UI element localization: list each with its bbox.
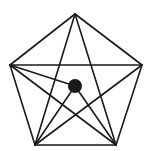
edge-left-top — [10, 14, 75, 65]
graph-nodes — [68, 79, 82, 93]
center-node — [68, 79, 82, 93]
edge-right-bottom-right — [116, 65, 142, 145]
edge-center-bottom-left — [35, 86, 75, 145]
edge-top-right — [75, 14, 142, 65]
edge-center-bottom-right — [75, 86, 116, 145]
edge-bottom-left-left — [10, 65, 35, 145]
pentagon-graph-diagram — [0, 0, 154, 151]
edge-top-bottom-right — [75, 14, 116, 145]
edge-center-left — [10, 65, 75, 86]
